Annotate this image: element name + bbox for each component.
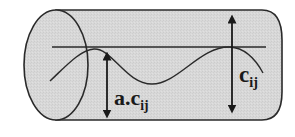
label-cij-main: c bbox=[239, 62, 249, 87]
label-a-cij-main: a.c bbox=[114, 85, 140, 110]
label-a-cij: a.cij bbox=[114, 87, 149, 112]
cylinder-left-ellipse bbox=[24, 10, 88, 120]
label-a-cij-subscript: ij bbox=[140, 98, 148, 113]
cylinder-diagram: a.cij cij bbox=[0, 0, 295, 137]
label-cij-subscript: ij bbox=[249, 74, 258, 90]
label-cij: cij bbox=[239, 63, 258, 89]
